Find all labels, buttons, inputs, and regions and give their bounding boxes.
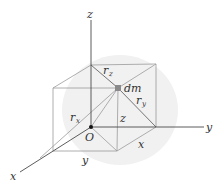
mass-element-dm: [115, 85, 121, 91]
background-shading: [62, 55, 178, 165]
z-coordinate-label: z: [119, 112, 126, 125]
z-axis-label: z: [86, 8, 93, 21]
y-coordinate-label: y: [81, 154, 89, 167]
svg-text:x: x: [76, 117, 80, 125]
y-axis-label: y: [205, 121, 213, 134]
origin-label: O: [85, 131, 94, 144]
moment-of-inertia-diagram: z y x O dm r z r y r x z x y: [0, 0, 221, 188]
svg-text:z: z: [108, 70, 113, 78]
x-coordinate-label: x: [138, 138, 145, 151]
origin-point: [89, 125, 93, 129]
x-axis-label: x: [10, 170, 17, 183]
